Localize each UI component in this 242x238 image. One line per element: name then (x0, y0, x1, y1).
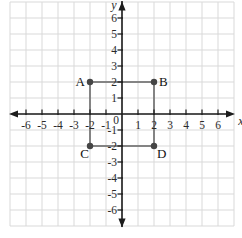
point-label-C: C (80, 146, 89, 161)
x-tick-label: -3 (69, 119, 79, 131)
y-tick-label: 1 (111, 92, 117, 104)
graph-canvas: -6-5-4-3-2-1123456-6-5-4-3-2-11234560xyA… (0, 0, 242, 238)
x-tick-label: 1 (135, 119, 141, 131)
point-label-B: B (159, 74, 168, 89)
point-label-D: D (157, 146, 166, 161)
point-B (151, 79, 157, 85)
x-tick-label: -5 (37, 119, 47, 131)
x-axis-label: x (237, 114, 242, 128)
y-tick-label: 2 (111, 76, 117, 88)
x-tick-label: 5 (199, 119, 205, 131)
point-label-A: A (76, 74, 86, 89)
y-tick-label: -2 (107, 140, 117, 152)
y-axis-label: y (110, 0, 117, 12)
x-tick-label: 4 (183, 119, 189, 131)
y-tick-label: -5 (107, 188, 117, 200)
coordinate-plane: -6-5-4-3-2-1123456-6-5-4-3-2-11234560xyA… (0, 0, 242, 238)
y-tick-label: 6 (111, 12, 117, 24)
x-tick-label: -2 (85, 119, 95, 131)
origin-label: 0 (113, 114, 119, 126)
x-tick-label: 6 (215, 119, 221, 131)
y-tick-label: -4 (107, 172, 117, 184)
y-tick-label: -6 (107, 204, 117, 216)
y-tick-label: 5 (111, 28, 117, 40)
x-tick-label: -4 (53, 119, 63, 131)
x-tick-label: -6 (21, 119, 31, 131)
y-tick-label: 4 (111, 44, 117, 56)
point-A (87, 79, 93, 85)
x-tick-label: 2 (151, 119, 157, 131)
y-tick-label: 3 (111, 60, 117, 72)
y-tick-label: -3 (107, 156, 117, 168)
x-tick-label: 3 (167, 119, 173, 131)
